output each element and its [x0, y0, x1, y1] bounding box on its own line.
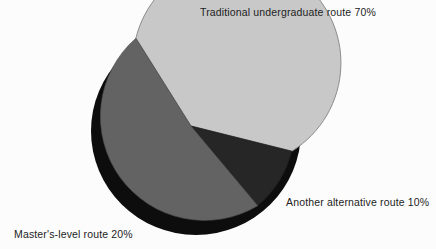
pie-chart-graphic — [0, 0, 436, 249]
pie-label-masters-level: Master's-level route 20% — [14, 228, 133, 241]
pie-label-another-alternative: Another alternative route 10% — [286, 196, 429, 209]
pie-chart-figure: Traditional undergraduate route 70% Mast… — [0, 0, 436, 249]
pie-label-traditional-undergraduate: Traditional undergraduate route 70% — [200, 6, 376, 19]
